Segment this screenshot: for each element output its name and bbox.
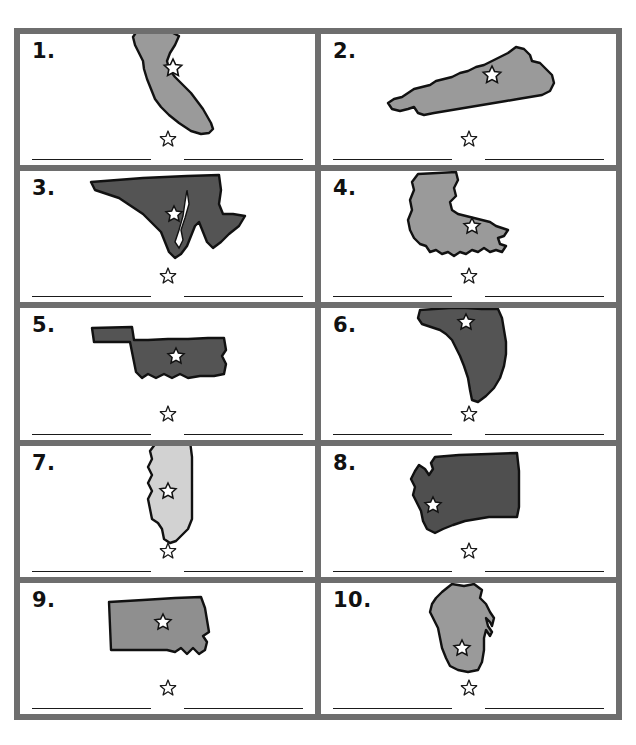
answer-line-capital[interactable] (485, 159, 604, 160)
answer-line-state-name[interactable] (333, 708, 452, 709)
grid-row: 3. 4. (20, 171, 616, 302)
question-cell-5: 5. (20, 308, 315, 439)
state-shape-oklahoma (20, 310, 315, 401)
answer-line-state-name[interactable] (32, 296, 151, 297)
state-shape-mississippi (20, 448, 315, 539)
question-cell-1: 1. (20, 34, 315, 165)
answer-line-state-name[interactable] (32, 434, 151, 435)
answer-line-state-name[interactable] (333, 159, 452, 160)
answer-zone (32, 263, 303, 297)
answer-line-state-name[interactable] (333, 571, 452, 572)
answer-line-state-name[interactable] (32, 708, 151, 709)
capital-star-icon (159, 679, 176, 696)
capital-star-icon (159, 405, 176, 422)
answer-line-capital[interactable] (184, 434, 303, 435)
answer-line-state-name[interactable] (333, 434, 452, 435)
answer-line-capital[interactable] (485, 708, 604, 709)
answer-line-state-name[interactable] (32, 159, 151, 160)
capital-star-icon (460, 267, 477, 284)
question-cell-7: 7. (20, 446, 315, 577)
state-shape-maryland (20, 173, 315, 264)
answer-zone (333, 675, 604, 709)
answer-line-state-name[interactable] (32, 571, 151, 572)
answer-line-capital[interactable] (184, 296, 303, 297)
answer-zone (333, 538, 604, 572)
capital-star-icon (460, 130, 477, 147)
question-cell-9: 9. (20, 583, 315, 714)
question-cell-4: 4. (321, 171, 616, 302)
capital-star-icon (159, 130, 176, 147)
grid-row: 5. 6. (20, 308, 616, 439)
capital-star-icon (159, 542, 176, 559)
answer-zone (333, 401, 604, 435)
answer-zone (32, 401, 303, 435)
capital-star-icon (460, 405, 477, 422)
worksheet-grid: 1. 2. (14, 28, 622, 720)
answer-line-capital[interactable] (184, 708, 303, 709)
state-shape-california (20, 36, 315, 127)
page-watermark (0, 4, 636, 20)
question-cell-6: 6. (321, 308, 616, 439)
capital-star-icon (460, 679, 477, 696)
state-shape-kentucky (321, 36, 616, 127)
state-shape-florida (321, 310, 616, 401)
answer-zone (333, 263, 604, 297)
answer-zone (32, 126, 303, 160)
answer-line-capital[interactable] (485, 434, 604, 435)
state-shape-washington (321, 448, 616, 539)
answer-line-state-name[interactable] (333, 296, 452, 297)
answer-zone (32, 538, 303, 572)
answer-line-capital[interactable] (184, 571, 303, 572)
question-cell-10: 10. (321, 583, 616, 714)
grid-row: 1. 2. (20, 34, 616, 165)
capital-star-icon (159, 267, 176, 284)
answer-line-capital[interactable] (184, 159, 303, 160)
state-shape-louisiana (321, 173, 616, 264)
answer-zone (333, 126, 604, 160)
answer-zone (32, 675, 303, 709)
answer-line-capital[interactable] (485, 296, 604, 297)
grid-row: 7. 8. (20, 446, 616, 577)
grid-row: 9. 10. (20, 583, 616, 714)
question-cell-2: 2. (321, 34, 616, 165)
capital-star-icon (460, 542, 477, 559)
state-shape-wisconsin (321, 585, 616, 676)
question-cell-8: 8. (321, 446, 616, 577)
answer-line-capital[interactable] (485, 571, 604, 572)
state-shape-south-dakota (20, 585, 315, 676)
question-cell-3: 3. (20, 171, 315, 302)
